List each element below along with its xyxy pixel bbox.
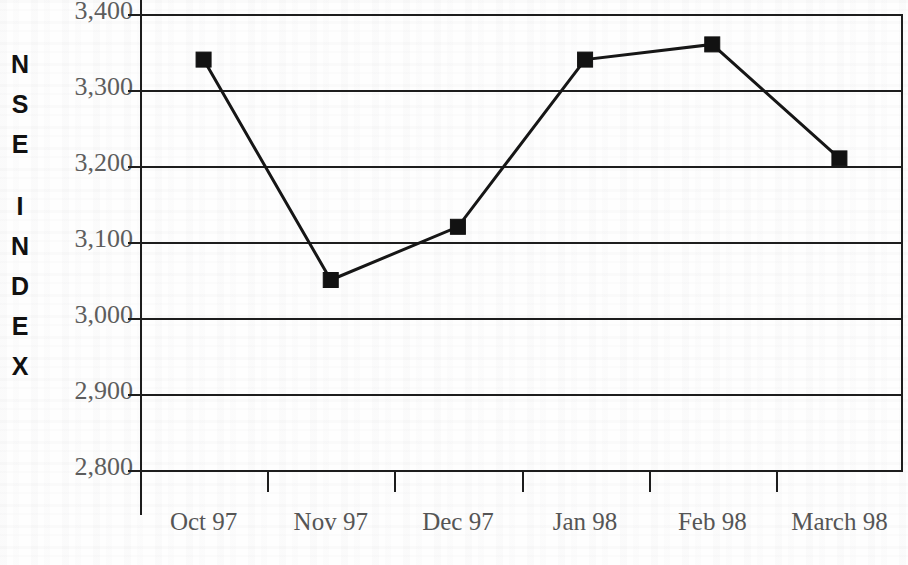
data-point-nov-97 xyxy=(323,273,338,288)
plot-area xyxy=(140,14,903,470)
data-point-dec-97 xyxy=(450,219,465,234)
y-tick-label-3200: 3,200 xyxy=(28,148,133,178)
y-axis-tick-labels: 3,4003,3003,2003,1003,0002,9002,800 xyxy=(0,0,133,565)
nse-index-line-chart: N S E I N D E X 3,4003,3003,2003,1003,00… xyxy=(0,0,908,565)
x-tick-mark-1 xyxy=(267,470,269,492)
y-tick-label-2800: 2,800 xyxy=(28,452,133,482)
x-tick-mark-2 xyxy=(394,470,396,492)
x-tick-label-nov-97: Nov 97 xyxy=(294,508,368,536)
data-point-feb-98 xyxy=(705,37,720,52)
data-point-march-98 xyxy=(832,151,847,166)
y-tick-label-3100: 3,100 xyxy=(28,224,133,254)
x-tick-label-jan-98: Jan 98 xyxy=(553,508,618,536)
y-tick-label-3300: 3,300 xyxy=(28,72,133,102)
series-graphic xyxy=(140,14,903,470)
x-tick-label-march-98: March 98 xyxy=(791,508,888,536)
series-markers xyxy=(196,37,847,288)
y-tick-label-3000: 3,000 xyxy=(28,300,133,330)
data-point-oct-97 xyxy=(196,52,211,67)
x-tick-label-feb-98: Feb 98 xyxy=(678,508,747,536)
series-line-nse-index xyxy=(204,44,840,280)
x-tick-label-dec-97: Dec 97 xyxy=(422,508,494,536)
y-tick-mark-2800 xyxy=(128,470,150,472)
x-tick-mark-5 xyxy=(776,470,778,492)
x-tick-label-oct-97: Oct 97 xyxy=(170,508,237,536)
x-tick-mark-4 xyxy=(649,470,651,492)
x-tick-mark-3 xyxy=(522,470,524,492)
y-tick-label-3400: 3,400 xyxy=(28,0,133,26)
data-point-jan-98 xyxy=(578,52,593,67)
y-tick-label-2900: 2,900 xyxy=(28,376,133,406)
